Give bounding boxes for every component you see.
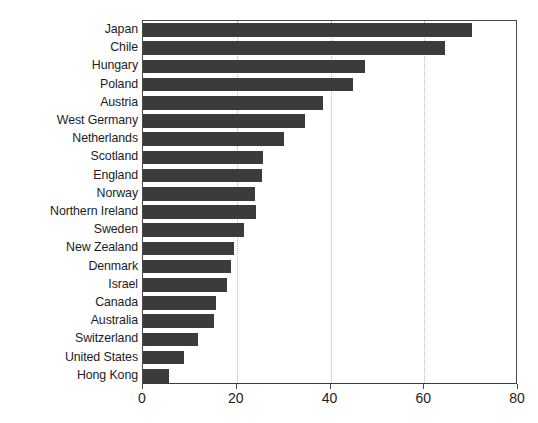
bar-row [143,39,518,57]
plot-area [142,20,517,384]
y-axis-label-japan: Japan [0,20,138,38]
bar-hungary [143,60,365,74]
bar-row [143,112,518,130]
bar-poland [143,78,353,92]
x-tick-label-20: 20 [228,390,244,406]
y-axis-label-new-zealand: New Zealand [0,238,138,256]
bar-northern-ireland [143,205,256,219]
y-axis-label-netherlands: Netherlands [0,129,138,147]
y-axis-label-australia: Australia [0,311,138,329]
bar-row [143,130,518,148]
x-tick-label-80: 80 [509,390,525,406]
y-axis-label-poland: Poland [0,75,138,93]
bar-row [143,203,518,221]
bar-new-zealand [143,242,234,256]
bar-israel [143,278,227,292]
bar-chart: JapanChileHungaryPolandAustriaWest Germa… [0,0,538,423]
y-axis-label-sweden: Sweden [0,220,138,238]
x-tick-80 [517,384,518,389]
bar-norway [143,187,255,201]
bar-row [143,76,518,94]
y-axis-label-norway: Norway [0,184,138,202]
y-axis-label-chile: Chile [0,38,138,56]
y-axis-label-england: England [0,166,138,184]
x-tick-20 [236,384,237,389]
bar-row [143,57,518,75]
y-axis-label-denmark: Denmark [0,257,138,275]
bar-japan [143,23,472,37]
bar-canada [143,296,216,310]
bar-austria [143,96,323,110]
bar-row [143,148,518,166]
y-axis-label-canada: Canada [0,293,138,311]
bar-denmark [143,260,231,274]
y-axis-label-switzerland: Switzerland [0,329,138,347]
x-tick-40 [330,384,331,389]
bars [143,21,516,383]
bar-row [143,258,518,276]
x-tick-label-0: 0 [138,390,146,406]
bar-row [143,21,518,39]
bar-hong-kong [143,369,169,383]
y-axis-label-west-germany: West Germany [0,111,138,129]
bar-chile [143,41,445,55]
x-tick-60 [423,384,424,389]
x-tick-0 [142,384,143,389]
bar-row [143,167,518,185]
y-axis-label-united-states: United States [0,348,138,366]
bar-united-states [143,351,184,365]
y-axis-label-northern-ireland: Northern Ireland [0,202,138,220]
bar-row [143,276,518,294]
bar-west-germany [143,114,305,128]
y-axis-label-israel: Israel [0,275,138,293]
y-axis-label-hong-kong: Hong Kong [0,366,138,384]
bar-switzerland [143,333,198,347]
bar-row [143,330,518,348]
x-tick-label-60: 60 [415,390,431,406]
bar-netherlands [143,132,284,146]
bar-row [143,294,518,312]
bar-row [143,239,518,257]
y-axis-label-scotland: Scotland [0,147,138,165]
y-axis-label-hungary: Hungary [0,56,138,74]
x-tick-label-40: 40 [322,390,338,406]
bar-row [143,94,518,112]
bar-scotland [143,151,263,165]
bar-england [143,169,262,183]
y-axis-labels: JapanChileHungaryPolandAustriaWest Germa… [0,20,138,384]
bar-row [143,221,518,239]
bar-sweden [143,223,244,237]
bar-australia [143,314,214,328]
y-axis-label-austria: Austria [0,93,138,111]
bar-row [143,349,518,367]
bar-row [143,185,518,203]
bar-row [143,312,518,330]
bar-row [143,367,518,385]
